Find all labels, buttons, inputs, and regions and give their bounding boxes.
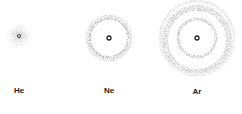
atom-diagram: [0, 0, 242, 114]
label-argon: Ar: [193, 87, 202, 96]
label-neon: Ne: [104, 86, 114, 95]
neon-nucleus: [107, 36, 111, 40]
helium-nucleus: [18, 35, 21, 38]
label-helium: He: [14, 86, 24, 95]
argon-nucleus: [195, 36, 199, 40]
